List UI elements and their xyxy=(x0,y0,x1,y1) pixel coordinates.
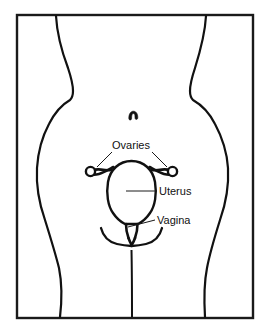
right-ovary xyxy=(168,167,177,176)
label-vagina: Vagina xyxy=(157,214,191,226)
anatomy-diagram-canvas: Ovaries Uterus Vagina xyxy=(0,0,270,333)
anatomy-figure: Ovaries Uterus Vagina xyxy=(0,0,270,333)
label-uterus: Uterus xyxy=(159,185,192,197)
ovaries-leader-right xyxy=(152,152,167,167)
label-ovaries: Ovaries xyxy=(112,139,150,151)
torso-outline-right xyxy=(190,16,228,317)
cervix-right xyxy=(135,224,138,238)
cervix-left xyxy=(126,224,129,238)
left-ovary xyxy=(86,167,95,176)
navel-icon xyxy=(129,111,138,120)
torso-outline-left xyxy=(37,16,73,317)
ovaries-leader-left xyxy=(97,152,112,167)
leg-cleft-line xyxy=(132,250,133,317)
uterus-body xyxy=(107,161,156,224)
vagina-canal-right xyxy=(132,238,135,245)
